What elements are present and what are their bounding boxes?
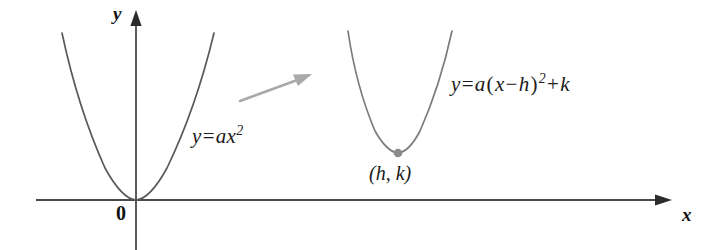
x-axis bbox=[36, 195, 672, 206]
x-axis-arrowhead bbox=[655, 195, 672, 206]
eq-right-variable: x bbox=[495, 72, 505, 96]
figure-canvas bbox=[0, 0, 706, 250]
eq-right-coefficient: a bbox=[475, 72, 486, 96]
eq-right-equals: = bbox=[461, 72, 475, 96]
translation-arrow-head bbox=[293, 74, 312, 86]
vertex-point-dot bbox=[394, 149, 403, 158]
parabola-translation-figure: y x 0 y=ax2 y=a(x−h)2+k (h, k) bbox=[0, 0, 706, 250]
parabola-translated-curve bbox=[348, 31, 452, 153]
y-axis-arrowhead bbox=[130, 10, 141, 26]
eq-left-variable: x bbox=[227, 124, 237, 148]
parabola-base-curve bbox=[62, 33, 214, 200]
eq-right-lhs: y bbox=[451, 72, 461, 96]
eq-left-coefficient: a bbox=[216, 124, 227, 148]
eq-left-exponent: 2 bbox=[236, 123, 243, 138]
eq-left-lhs: y bbox=[192, 124, 202, 148]
origin-label: 0 bbox=[116, 203, 126, 223]
eq-right-close-paren: ) bbox=[529, 72, 538, 96]
equation-base-parabola: y=ax2 bbox=[192, 124, 243, 147]
equation-translated-parabola: y=a(x−h)2+k bbox=[451, 72, 570, 95]
y-axis-label: y bbox=[113, 4, 121, 23]
eq-left-equals: = bbox=[202, 124, 216, 148]
eq-right-shift-h: h bbox=[519, 72, 530, 96]
translation-arrow-icon bbox=[240, 74, 312, 101]
eq-right-open-paren: ( bbox=[486, 72, 495, 96]
x-axis-label: x bbox=[682, 205, 692, 224]
eq-right-plus: + bbox=[546, 72, 560, 96]
eq-right-exponent: 2 bbox=[539, 71, 546, 86]
eq-right-minus: − bbox=[505, 72, 519, 96]
vertex-coordinate-label: (h, k) bbox=[369, 163, 411, 183]
translation-arrow-shaft bbox=[240, 79, 300, 101]
y-axis bbox=[130, 10, 141, 250]
eq-right-shift-k: k bbox=[560, 72, 570, 96]
